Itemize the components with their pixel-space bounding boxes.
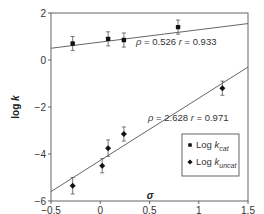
y-tick-label: 2: [40, 8, 46, 19]
scatter-chart: −0.500.511.5−6−4−202 ρ = 0.526 r = 0.933…: [0, 0, 264, 214]
circle-marker: [106, 37, 110, 41]
diamond-marker: [219, 85, 225, 91]
legend: Log kcatLog kuncat: [182, 134, 239, 176]
fit-annotation: ρ = 2.628 r = 0.971: [147, 112, 228, 123]
x-tick-label: 1: [196, 205, 202, 214]
x-tick-label: 0: [97, 205, 103, 214]
circle-marker: [70, 41, 74, 45]
diamond-marker: [99, 163, 105, 169]
x-tick-label: 1.5: [241, 205, 255, 214]
diamond-marker: [121, 131, 127, 137]
fit-annotation: ρ = 0.526 r = 0.933: [135, 36, 216, 47]
y-tick-label: −2: [35, 102, 47, 113]
diamond-marker: [105, 145, 111, 151]
circle-marker: [122, 38, 126, 42]
y-tick-label: −4: [35, 149, 47, 160]
y-axis-title: log k: [10, 95, 21, 119]
circle-marker: [176, 25, 180, 29]
y-tick-label: 0: [40, 55, 46, 66]
x-tick-label: 0.5: [143, 205, 157, 214]
fit-annotations: ρ = 0.526 r = 0.933ρ = 2.628 r = 0.971: [135, 36, 228, 123]
diamond-marker: [70, 183, 76, 189]
y-tick-label: −6: [35, 196, 47, 207]
circle-marker: [188, 143, 192, 147]
x-axis-title: σ: [147, 190, 154, 201]
